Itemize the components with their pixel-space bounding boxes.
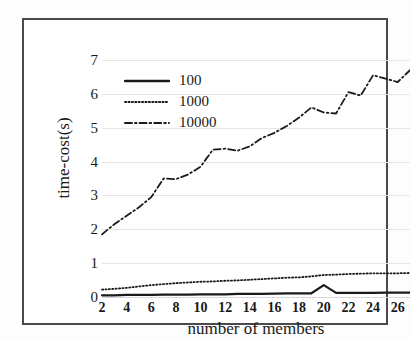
legend-swatch-dotted-icon <box>124 96 170 108</box>
y-tick-label: 7 <box>72 52 98 69</box>
x-tick-label: 16 <box>267 300 281 316</box>
chart-legend: 100100010000 <box>124 70 244 133</box>
figure-frame: 01234567 time-cost(s) 246810121416182022… <box>22 18 388 325</box>
x-tick-label: 2 <box>99 300 106 316</box>
x-tick-label: 14 <box>243 300 257 316</box>
y-tick-label: 2 <box>72 221 98 238</box>
legend-swatch-solid-icon <box>124 75 170 87</box>
legend-item-10000: 10000 <box>124 112 244 133</box>
y-tick-label: 1 <box>72 255 98 272</box>
x-tick-label: 24 <box>366 300 380 316</box>
legend-label: 10000 <box>179 114 217 131</box>
x-tick-label: 26 <box>391 300 405 316</box>
legend-label: 100 <box>179 72 202 89</box>
legend-swatch-dash-dot-icon <box>124 117 170 129</box>
legend-item-100: 100 <box>124 70 244 91</box>
legend-label: 1000 <box>179 93 209 110</box>
x-tick-label: 6 <box>148 300 155 316</box>
x-tick-label: 8 <box>172 300 179 316</box>
legend-item-1000: 1000 <box>124 91 244 112</box>
x-axis-ticks: 2468101214161820222426 <box>102 300 410 320</box>
x-tick-label: 18 <box>292 300 306 316</box>
x-tick-label: 10 <box>194 300 208 316</box>
series-line-1000 <box>102 273 410 290</box>
y-tick-label: 3 <box>72 187 98 204</box>
x-tick-label: 4 <box>123 300 130 316</box>
figure-page: 01234567 time-cost(s) 246810121416182022… <box>0 0 410 341</box>
gridline <box>102 297 410 298</box>
x-tick-label: 22 <box>341 300 355 316</box>
x-axis-label: number of members <box>102 319 410 339</box>
y-axis-label: time-cost(s) <box>54 88 74 228</box>
y-tick-label: 4 <box>72 153 98 170</box>
y-tick-label: 0 <box>72 289 98 306</box>
y-tick-label: 6 <box>72 85 98 102</box>
x-tick-label: 20 <box>317 300 331 316</box>
x-tick-label: 12 <box>218 300 232 316</box>
y-tick-label: 5 <box>72 119 98 136</box>
series-line-100 <box>102 285 410 295</box>
